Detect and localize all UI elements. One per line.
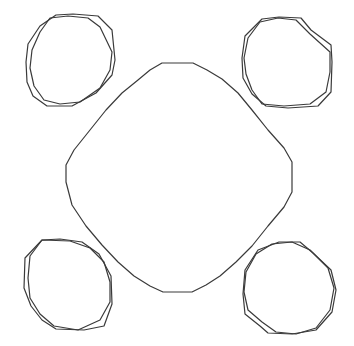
diagram-canvas — [0, 0, 354, 346]
background — [0, 0, 354, 346]
line-drawing — [0, 0, 354, 346]
